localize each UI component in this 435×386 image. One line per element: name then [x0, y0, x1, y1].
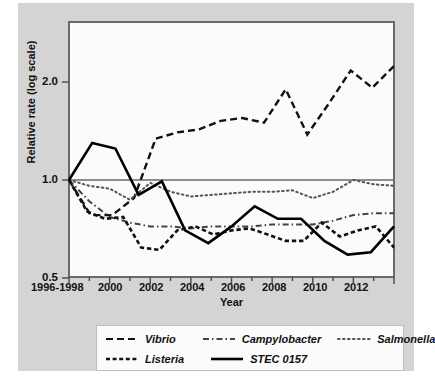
legend-row-2: Listeria STEC 0157 — [105, 350, 307, 368]
series-line-listeria — [69, 180, 394, 250]
series-line-salmonella — [69, 180, 394, 200]
series-line-stec-0157 — [69, 143, 394, 255]
legend-item-stec[interactable]: STEC 0157 — [210, 353, 307, 365]
dash-dot-key-icon — [202, 333, 236, 345]
legend-label-salmonella: Salmonella — [377, 333, 435, 345]
legend-item-campylobacter[interactable]: Campylobacter — [202, 333, 321, 345]
long-dash-key-icon — [105, 333, 139, 345]
series-line-campylobacter — [69, 180, 394, 228]
legend: Vibrio Campylobacter Salmonella Listeria… — [96, 325, 404, 371]
dotted-key-icon — [337, 333, 371, 345]
legend-label-listeria: Listeria — [145, 353, 184, 365]
legend-label-stec: STEC 0157 — [250, 353, 307, 365]
legend-label-campylobacter: Campylobacter — [242, 333, 321, 345]
legend-item-vibrio[interactable]: Vibrio — [105, 333, 176, 345]
series-paths — [69, 66, 394, 255]
legend-row-1: Vibrio Campylobacter Salmonella — [105, 330, 435, 348]
legend-label-vibrio: Vibrio — [145, 333, 176, 345]
short-dash-key-icon — [105, 353, 139, 365]
legend-item-salmonella[interactable]: Salmonella — [337, 333, 435, 345]
legend-item-listeria[interactable]: Listeria — [105, 353, 184, 365]
solid-key-icon — [210, 353, 244, 365]
